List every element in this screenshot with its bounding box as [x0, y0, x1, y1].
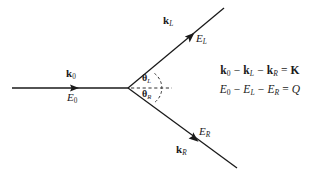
eq-en-ER-symbol: E — [267, 83, 274, 95]
eq-mom-result-symbol: K — [291, 64, 300, 76]
incoming-energy-label: E0 — [67, 92, 77, 105]
outgoing-left-arrowhead — [185, 33, 195, 43]
outgoing-right-energy-symbol: E — [199, 125, 206, 137]
outgoing-left-energy-symbol: E — [196, 32, 203, 44]
outgoing-right-momentum-subscript: R — [182, 149, 186, 157]
angle-left-label: θL — [142, 73, 151, 84]
eq-mom-minus-2: − — [254, 64, 267, 76]
eq-en-equals: = — [279, 83, 292, 95]
outgoing-right-momentum-label: kR — [176, 144, 187, 157]
outgoing-left-energy-subscript: L — [203, 38, 207, 46]
energy-conservation-equation: E0−EL−ER=Q — [205, 83, 315, 97]
incoming-energy-subscript: 0 — [74, 97, 78, 105]
eq-en-minus-2: − — [255, 83, 268, 95]
outgoing-left-momentum-label: kL — [163, 15, 173, 28]
conservation-equations: k0−kL−kR=K E0−EL−ER=Q — [205, 64, 315, 97]
outgoing-left-energy-label: EL — [196, 33, 207, 46]
eq-en-result-symbol: Q — [292, 83, 300, 95]
outgoing-left-momentum-subscript: L — [169, 20, 173, 28]
scattering-diagram-figure: k0 E0 kL EL kR ER θL θR k0−kL−kR=K E0−EL… — [0, 0, 318, 176]
incoming-momentum-label: k0 — [66, 68, 76, 81]
angle-left-subscript: L — [147, 77, 151, 84]
incoming-momentum-subscript: 0 — [72, 73, 76, 81]
eq-mom-minus-1: − — [231, 64, 244, 76]
angle-right-subscript: R — [147, 93, 151, 100]
eq-en-minus-1: − — [231, 83, 244, 95]
eq-en-E0-symbol: E — [220, 83, 227, 95]
incoming-energy-symbol: E — [67, 91, 74, 103]
angle-right-label: θR — [142, 89, 151, 100]
eq-mom-equals: = — [278, 64, 291, 76]
outgoing-right-energy-subscript: R — [206, 131, 210, 139]
momentum-conservation-equation: k0−kL−kR=K — [205, 64, 315, 78]
outgoing-right-energy-label: ER — [199, 126, 210, 139]
